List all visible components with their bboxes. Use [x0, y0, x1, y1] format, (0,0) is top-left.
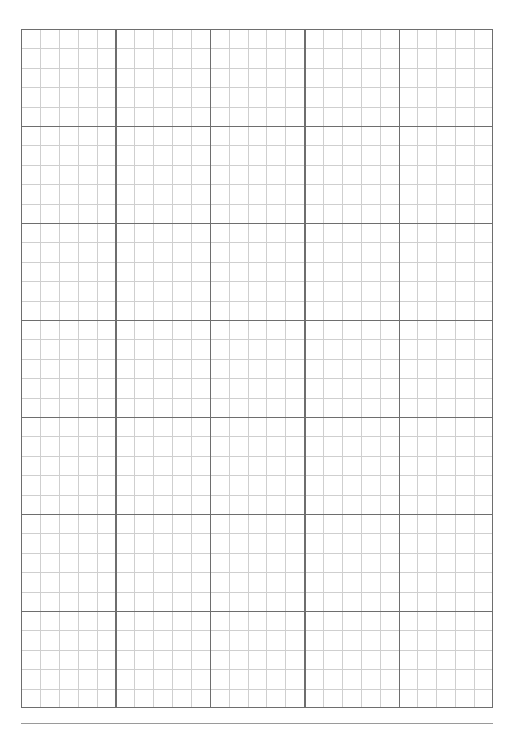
- graph-paper-sheet: [0, 0, 515, 734]
- footer-horizontal-rule: [21, 723, 493, 724]
- major-gridlines: [21, 29, 493, 708]
- graph-paper-grid: [21, 29, 493, 708]
